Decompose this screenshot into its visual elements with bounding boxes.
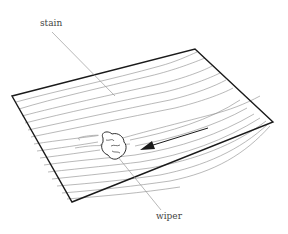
wiper-cloth-icon [102,132,126,159]
wiper-leader-line [118,157,161,210]
stain-leader-line [52,32,115,96]
board-outline [12,49,273,202]
diagram-canvas [0,0,288,234]
wood-grain [16,52,270,199]
stain-label: stain [40,19,62,28]
wiper-label: wiper [156,212,182,221]
